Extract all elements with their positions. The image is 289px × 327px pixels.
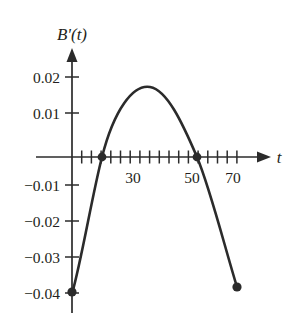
y-tick-label--0.04: −0.04 <box>24 285 60 302</box>
x-axis-group: 30 50 70 t <box>36 148 283 186</box>
chart-figure: 0.02 0.01 −0.01 −0.02 −0.03 −0.04 B'(t) … <box>0 0 289 327</box>
y-tick-label--0.02: −0.02 <box>24 213 60 230</box>
marked-points-group <box>67 153 241 297</box>
x-axis-arrow-icon <box>257 152 271 163</box>
y-tick-label-0.02: 0.02 <box>33 69 60 86</box>
x-tick-label-70: 70 <box>225 169 241 186</box>
y-tick-label--0.01: −0.01 <box>24 177 60 194</box>
y-axis-arrow-icon <box>67 48 78 62</box>
point-left-zero-crossing <box>98 153 107 162</box>
point-left-endpoint <box>67 287 76 296</box>
data-series-b-prime <box>72 87 237 294</box>
point-right-zero-crossing <box>193 153 202 162</box>
x-tick-label-30: 30 <box>125 169 141 186</box>
parabola-curve <box>72 87 237 294</box>
y-axis-title: B'(t) <box>57 25 87 44</box>
y-tick-label--0.03: −0.03 <box>24 249 60 266</box>
point-right-endpoint <box>232 282 241 291</box>
x-axis-title: t <box>277 148 283 167</box>
y-tick-label-0.01: 0.01 <box>33 105 60 122</box>
x-tick-label-50: 50 <box>184 169 200 186</box>
